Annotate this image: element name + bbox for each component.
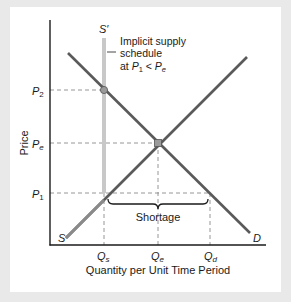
demand-label: D	[253, 232, 261, 244]
p2-label: P2	[32, 85, 44, 99]
supply-demand-diagram: Price Quantity per Unit Time Period P2 P…	[0, 0, 291, 302]
p1-label: P1	[32, 188, 44, 202]
shortage-label: Shortage	[136, 211, 181, 223]
implicit-supply-label: S′	[99, 23, 109, 35]
qd-label: Qd	[204, 250, 218, 264]
supply-label: S	[58, 232, 66, 244]
pe-label: Pe	[32, 138, 44, 152]
equilibrium-point	[155, 140, 162, 147]
x-axis-label: Quantity per Unit Time Period	[86, 264, 230, 276]
p2-point	[100, 86, 107, 93]
y-axis-label: Price	[18, 130, 30, 155]
annotation-line3: at P1 < Pe	[120, 60, 166, 74]
supply-curve-lower	[66, 200, 104, 238]
qe-label: Qe	[151, 250, 165, 264]
annotation-line2: schedule	[120, 47, 162, 59]
annotation-line1: Implicit supply	[120, 35, 187, 47]
qs-label: Qs	[97, 250, 110, 264]
